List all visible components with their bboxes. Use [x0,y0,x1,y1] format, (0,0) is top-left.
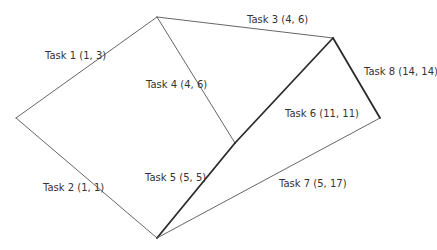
edge-task6 [235,38,333,143]
edge-label-task1: Task 1 (1, 3) [44,50,106,61]
edge-label-task4: Task 4 (4, 6) [145,79,207,90]
activity-network-diagram: Task 1 (1, 3)Task 2 (1, 1)Task 3 (4, 6)T… [0,0,437,250]
edge-label-task7: Task 7 (5, 17) [278,178,347,189]
edge-label-task2: Task 2 (1, 1) [42,182,104,193]
labels-layer: Task 1 (1, 3)Task 2 (1, 1)Task 3 (4, 6)T… [42,14,437,193]
edge-task2 [16,118,157,238]
edge-label-task3: Task 3 (4, 6) [246,14,308,25]
edge-label-task6: Task 6 (11, 11) [284,108,359,119]
edge-label-task8: Task 8 (14, 14) [363,66,437,77]
edge-task1 [16,17,157,118]
edge-task8 [333,38,380,118]
edge-task5 [157,143,235,238]
edge-label-task5: Task 5 (5, 5) [144,172,206,183]
